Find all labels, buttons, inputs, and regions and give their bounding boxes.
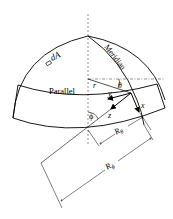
label-R-phi: Rϕ <box>103 160 116 173</box>
label-y: y <box>107 89 112 98</box>
parallel-curve <box>18 84 157 95</box>
r-phi-dim-line-2 <box>118 138 151 161</box>
label-phi: ϕ <box>89 112 93 121</box>
r-phi-ext-1 <box>41 163 62 208</box>
r-theta-ext-1 <box>88 130 99 146</box>
label-z: z <box>107 111 112 120</box>
label-parallel: Parallel <box>49 86 76 96</box>
label-meridian: Meridian <box>102 43 127 72</box>
shell-left-edge <box>13 85 18 118</box>
label-x: x <box>140 101 145 110</box>
label-r: r <box>93 81 97 90</box>
dA-element <box>46 61 52 66</box>
r-theta-dim-line <box>100 134 115 144</box>
normal-line <box>41 109 111 163</box>
r-phi-ext-2 <box>144 125 153 140</box>
r-phi-dim-line <box>61 170 105 201</box>
label-theta: θ <box>118 81 122 90</box>
label-R-theta: Rθ <box>112 125 125 138</box>
shell-diagram: dA Meridian Parallel r θ y x z ϕ Rθ Rϕ <box>0 0 173 219</box>
meridian-curve <box>88 36 144 125</box>
